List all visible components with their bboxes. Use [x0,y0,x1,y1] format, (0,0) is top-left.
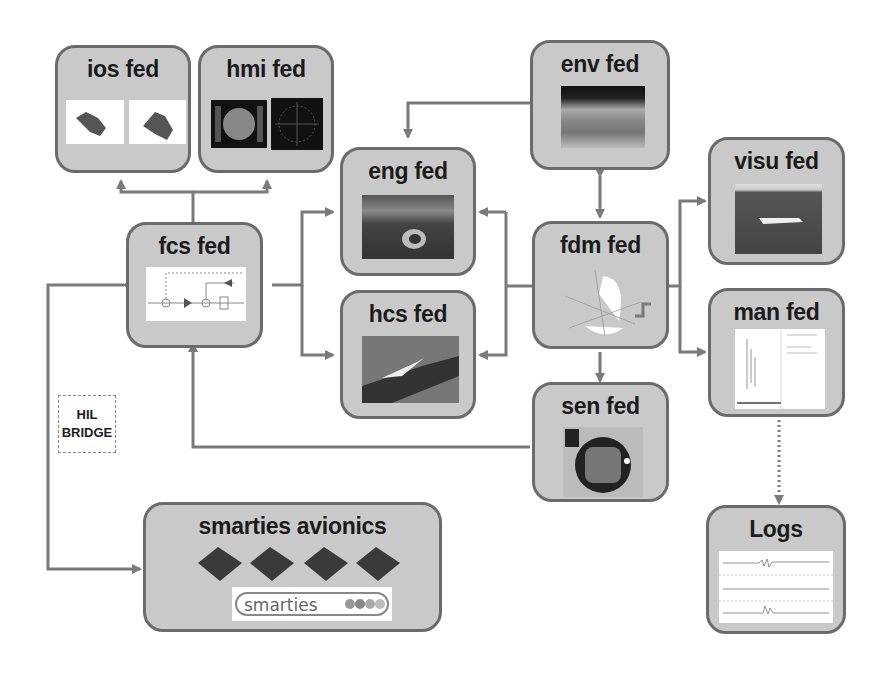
wing-image [362,336,459,403]
node-label: eng fed [368,158,448,184]
sensor-image [563,427,643,497]
smarties-logo: smarties [232,587,392,621]
avionics-boards-image [192,543,402,583]
node-fcs-fed[interactable]: fcs fed [126,222,263,348]
node-label: env fed [561,51,639,77]
nav-display-image [271,98,323,150]
node-label: Logs [749,516,803,542]
node-fdm-fed[interactable]: fdm fed [532,221,669,349]
control-diagram-image [146,267,246,321]
node-ios-fed[interactable]: ios fed [55,45,191,173]
hil-bridge-line1: HIL [77,406,98,424]
flight-axes-image [555,266,651,344]
engine-image [362,195,454,259]
node-hcs-fed[interactable]: hcs fed [340,290,476,419]
node-label: man fed [733,299,819,325]
earth-atmosphere-image [561,86,645,148]
hil-bridge-label: HIL BRIDGE [58,395,116,453]
node-label: smarties avionics [199,513,387,539]
node-env-fed[interactable]: env fed [530,40,670,170]
node-label: fdm fed [560,232,641,258]
node-hmi-fed[interactable]: hmi fed [198,45,334,173]
node-label: hcs fed [369,301,447,327]
robot-arm-image [129,100,186,144]
robot-arm-image [66,100,124,144]
node-label: fcs fed [158,233,230,259]
manager-window-image [735,329,825,409]
node-man-fed[interactable]: man fed [708,288,845,417]
node-sen-fed[interactable]: sen fed [532,382,669,502]
node-label: ios fed [87,56,159,82]
hil-bridge-line2: BRIDGE [62,424,113,442]
pfd-display-image [211,100,267,148]
node-visu-fed[interactable]: visu fed [708,137,845,265]
aircraft-view-image [735,184,822,254]
node-label: sen fed [561,393,639,419]
node-smarties-avionics[interactable]: smarties avionics smarties [143,502,442,632]
svg-text:smarties: smarties [244,595,318,615]
node-label: hmi fed [226,56,306,82]
signal-traces-image [719,551,833,623]
node-logs[interactable]: Logs [706,505,846,634]
node-label: visu fed [734,148,819,174]
node-eng-fed[interactable]: eng fed [340,147,476,276]
